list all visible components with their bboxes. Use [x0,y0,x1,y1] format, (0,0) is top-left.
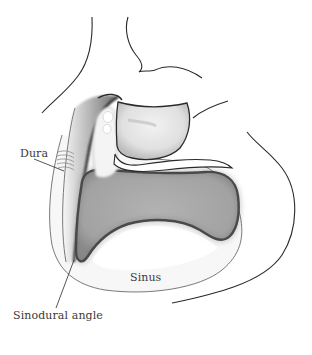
ossicle-bottom [103,125,111,134]
label-sinus: Sinus [130,271,161,284]
anatomical-illustration [0,0,312,355]
ossicle-top [103,112,113,123]
label-sinodural-angle: Sinodural angle [13,309,103,322]
tympanic-bowl [116,102,189,160]
label-dura: Dura [20,147,48,160]
